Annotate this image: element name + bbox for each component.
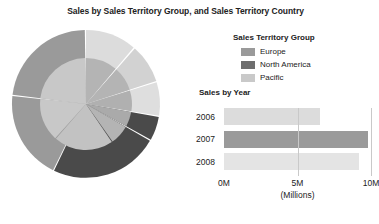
bar[interactable] — [224, 131, 368, 148]
legend-label-north-america: North America — [260, 60, 311, 69]
legend-swatch-europe — [241, 48, 255, 56]
sunburst-chart[interactable] — [10, 28, 162, 180]
legend-item-pacific[interactable]: Pacific — [233, 71, 371, 84]
legend-swatch-pacific — [241, 74, 255, 82]
x-tick-label: 10M — [363, 178, 379, 188]
page-title: Sales by Sales Territory Group, and Sale… — [0, 6, 371, 16]
legend-item-europe[interactable]: Europe — [233, 45, 371, 58]
sunburst-svg — [10, 28, 162, 180]
x-tick-label: 0M — [218, 178, 230, 188]
legend-title: Sales Territory Group — [233, 33, 371, 42]
legend-item-north-america[interactable]: North America — [233, 58, 371, 71]
gridline — [371, 108, 372, 176]
x-axis-ticks: 0M5M10M — [196, 178, 371, 190]
bar-category-label: 2007 — [196, 134, 222, 144]
bar-plot-inner: 200620072008 — [196, 108, 371, 176]
legend: Sales Territory Group Europe North Ameri… — [233, 33, 371, 84]
sales-by-year-chart: Sales by Year 200620072008 0M5M10M (Mill… — [196, 88, 371, 218]
bar-category-label: 2008 — [196, 157, 222, 167]
bar[interactable] — [224, 153, 359, 170]
legend-label-europe: Europe — [260, 47, 286, 56]
legend-swatch-north-america — [241, 61, 255, 69]
bar[interactable] — [224, 108, 320, 125]
bar-chart-title: Sales by Year — [199, 88, 371, 97]
x-axis-label: (Millions) — [224, 190, 371, 200]
bar-plot-area: 200620072008 — [196, 108, 371, 176]
legend-label-pacific: Pacific — [260, 73, 284, 82]
gridline — [298, 108, 299, 176]
x-tick-label: 5M — [292, 178, 304, 188]
bar-category-label: 2006 — [196, 112, 222, 122]
